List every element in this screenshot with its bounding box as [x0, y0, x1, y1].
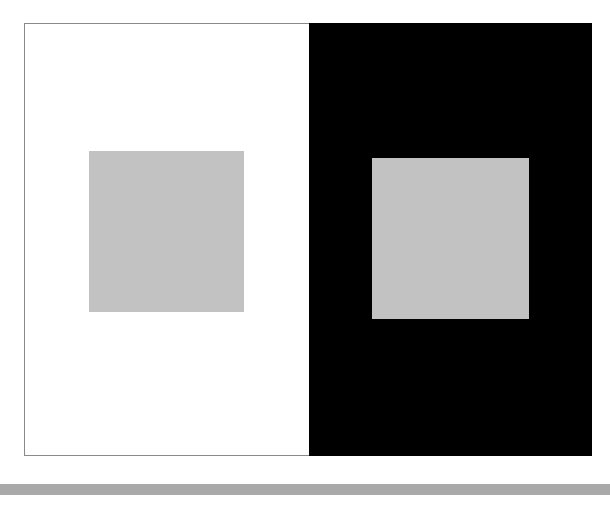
gray-square-on-black [372, 158, 529, 319]
gray-square-on-white [89, 151, 244, 312]
bottom-divider-bar [0, 484, 610, 495]
